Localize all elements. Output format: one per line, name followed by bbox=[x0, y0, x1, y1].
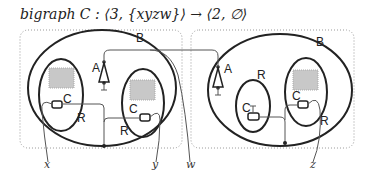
node-B-right bbox=[208, 34, 352, 146]
label-C-3: C bbox=[242, 101, 251, 115]
bigraph-diagram: bigraph C : ⟨3, {xyzw}⟩ → ⟨2, ∅⟩ B B C R… bbox=[0, 0, 371, 185]
label-R-2: R bbox=[120, 124, 129, 138]
name-x: x bbox=[44, 158, 51, 171]
label-R-1: R bbox=[77, 111, 86, 125]
name-w: w bbox=[186, 158, 196, 171]
site-1 bbox=[49, 68, 74, 88]
label-A-1: A bbox=[92, 61, 100, 75]
label-R-4: R bbox=[320, 114, 329, 128]
site-3 bbox=[293, 70, 318, 90]
node-A-2 bbox=[213, 68, 223, 87]
label-A-2: A bbox=[224, 62, 232, 76]
node-C-1 bbox=[52, 101, 62, 108]
label-C-2: C bbox=[129, 102, 138, 116]
label-C-4: C bbox=[292, 89, 301, 103]
node-C-2 bbox=[140, 114, 150, 121]
name-y: y bbox=[151, 158, 159, 171]
label-R-3: R bbox=[257, 68, 266, 82]
node-A-1 bbox=[99, 63, 109, 82]
name-z: z bbox=[309, 158, 316, 171]
label-B-right: B bbox=[316, 35, 324, 49]
label-B-left: B bbox=[136, 31, 144, 45]
site-2 bbox=[130, 80, 155, 100]
